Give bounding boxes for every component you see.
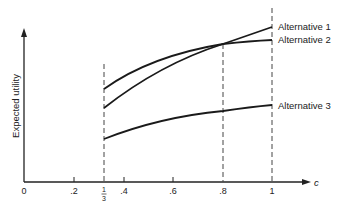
legend-alternative-3: Alternative 3 — [278, 100, 331, 111]
x-tick-label-0.4: .4 — [120, 186, 128, 196]
x-ticks — [74, 177, 173, 182]
y-axis-arrow-icon — [21, 28, 27, 37]
legend-alternative-2: Alternative 2 — [278, 34, 331, 45]
legend-alternative-1: Alternative 1 — [278, 21, 331, 32]
y-axis-title: Expected utility — [10, 74, 21, 138]
series-alternative-2 — [104, 40, 272, 89]
x-tick-label-0.6: .6 — [169, 186, 177, 196]
x-axis-title: c — [314, 177, 319, 188]
x-tick-label-0.8: .8 — [219, 186, 227, 196]
series-alternative-3 — [104, 105, 272, 139]
x-tick-label-0: 0 — [21, 186, 26, 196]
x-tick-label-1: 1 — [269, 186, 274, 196]
series-alternative-1 — [104, 27, 272, 108]
x-axis-arrow-icon — [302, 179, 311, 185]
x-tick-label-third-denominator: 3 — [102, 195, 106, 202]
chart-canvas: Alternative 1 Alternative 2 Alternative … — [0, 0, 342, 208]
x-tick-label-0.2: .2 — [70, 186, 78, 196]
x-tick-label-third-numerator: 1 — [102, 186, 106, 193]
